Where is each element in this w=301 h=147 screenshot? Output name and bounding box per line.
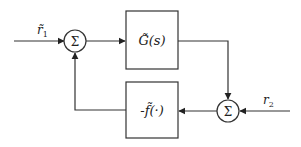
feedback-block: -f̃(·) (126, 82, 178, 138)
input-r1-label: r̃1 (37, 23, 48, 39)
input-r2-label: r2 (263, 93, 274, 109)
plant-label: G̃(s) (138, 33, 165, 48)
feedback-label: -f̃(·) (140, 102, 163, 118)
summing-junction-1: Σ (64, 30, 86, 52)
sigma-icon: Σ (71, 35, 79, 49)
feedback-output-line (75, 53, 126, 110)
block-diagram: r̃1 Σ G̃(s) Σ r2 -f̃(·) (0, 0, 301, 147)
summing-junction-2: Σ (217, 100, 239, 122)
plant-output-line (178, 41, 228, 99)
sigma-icon: Σ (224, 105, 232, 119)
plant-block: G̃(s) (126, 11, 178, 69)
